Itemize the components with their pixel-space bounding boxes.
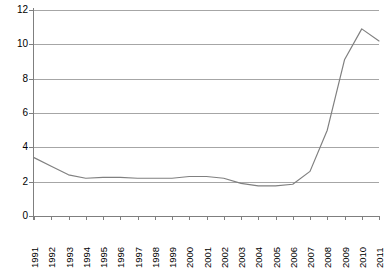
gridline [34,44,379,45]
x-axis-tick [51,216,52,220]
x-axis-tick [345,216,346,220]
x-axis-label: 2002 [219,257,230,268]
y-axis-label: 10 [4,39,28,49]
x-axis-tick [276,216,277,220]
y-axis-tick [29,113,34,114]
x-axis-tick [172,216,173,220]
x-axis-label: 1993 [64,257,75,268]
x-axis-tick [189,216,190,220]
x-axis-label: 1998 [150,257,161,268]
y-axis-tick [29,10,34,11]
x-axis-label: 1996 [115,257,126,268]
x-axis-tick [120,216,121,220]
x-axis-label: 2000 [184,257,195,268]
y-axis-label: 2 [4,177,28,187]
y-axis-label: 0 [4,211,28,221]
y-axis-tick [29,79,34,80]
x-axis-label: 2006 [288,257,299,268]
y-axis-tick [29,44,34,45]
x-axis-tick [69,216,70,220]
x-axis-tick [310,216,311,220]
y-axis-label: 6 [4,108,28,118]
y-axis-tick [29,147,34,148]
x-axis-tick [138,216,139,220]
x-axis-label: 1995 [98,257,109,268]
y-axis-tick [29,182,34,183]
gridline [34,10,379,11]
x-axis-label: 2008 [322,257,333,268]
x-axis-label: 2004 [253,257,264,268]
x-axis-label: 1999 [167,257,178,268]
x-axis-tick [103,216,104,220]
x-axis-label: 2005 [271,257,282,268]
x-axis-tick [258,216,259,220]
x-axis-tick [327,216,328,220]
x-axis-tick [155,216,156,220]
x-axis-tick [241,216,242,220]
x-axis-tick [224,216,225,220]
x-axis-tick [34,216,35,220]
x-axis-label: 2001 [202,257,213,268]
x-axis-label: 2003 [236,257,247,268]
x-axis-label: 1992 [46,257,57,268]
x-axis-tick [293,216,294,220]
gridline [34,182,379,183]
x-axis-label: 1997 [133,257,144,268]
y-axis-label: 12 [4,5,28,15]
y-axis-label: 4 [4,142,28,152]
x-axis-tick [86,216,87,220]
x-axis-label: 1991 [29,257,40,268]
x-axis-tick [379,216,380,220]
gridline [34,147,379,148]
x-axis-label: 1994 [81,257,92,268]
x-axis-tick [207,216,208,220]
x-axis-label: 2007 [305,257,316,268]
gridline [34,113,379,114]
y-axis-line [33,8,34,220]
gridline [34,79,379,80]
x-axis-tick [362,216,363,220]
x-axis-label: 2011 [374,257,384,268]
plot-area [34,10,379,216]
y-axis-label: 8 [4,74,28,84]
line-chart: 024681012 199119921993199419951996199719… [0,0,384,270]
x-axis-label: 2010 [357,257,368,268]
x-axis-label: 2009 [340,257,351,268]
